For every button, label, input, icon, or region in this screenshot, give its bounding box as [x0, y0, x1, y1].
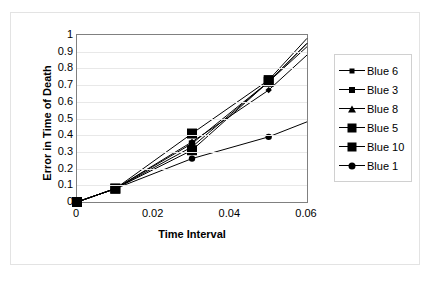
gridline	[77, 52, 307, 53]
legend-item-blue-3[interactable]: Blue 3	[339, 80, 407, 99]
gridline	[77, 152, 307, 153]
series-line	[77, 43, 307, 202]
plot-area	[76, 34, 308, 203]
legend-item-blue-10[interactable]: Blue 10	[339, 137, 407, 156]
series-line	[77, 43, 307, 202]
legend-item-label: Blue 3	[365, 84, 398, 96]
data-point-marker	[112, 185, 118, 191]
series-blue-10	[72, 47, 307, 207]
legend-item-label: Blue 10	[365, 141, 404, 153]
x-tick-label: 0.02	[131, 207, 175, 219]
y-tick-label: 0.2	[37, 163, 73, 174]
y-tick-label: 0	[37, 196, 73, 207]
legend-item-label: Blue 6	[365, 65, 398, 77]
x-tick-label: 0	[54, 207, 98, 219]
series-line	[77, 47, 307, 202]
data-point-marker	[189, 155, 195, 161]
legend-item-label: Blue 8	[365, 103, 398, 115]
chart-legend: Blue 6Blue 3Blue 8Blue 5Blue 10Blue 1	[334, 54, 412, 182]
y-tick-label: 0.5	[37, 113, 73, 124]
x-tick-label: 0.04	[207, 207, 251, 219]
legend-marker-square-sm-icon	[339, 83, 365, 97]
series-line	[77, 38, 307, 202]
legend-item-blue-8[interactable]: Blue 8	[339, 99, 407, 118]
legend-item-blue-5[interactable]: Blue 5	[339, 118, 407, 137]
y-axis-tick-labels: 00.10.20.30.40.50.60.70.80.91	[37, 34, 73, 216]
data-point-marker	[74, 199, 80, 205]
gridline	[77, 68, 307, 69]
legend-marker-circle-icon	[339, 159, 365, 173]
legend-item-blue-6[interactable]: Blue 6	[339, 61, 407, 80]
y-tick-label: 1	[37, 29, 73, 40]
y-tick-label: 0.7	[37, 79, 73, 90]
x-axis-title: Time Interval	[76, 228, 308, 240]
legend-item-label: Blue 5	[365, 122, 398, 134]
y-tick-label: 0.8	[37, 62, 73, 73]
y-tick-label: 0.4	[37, 129, 73, 140]
y-tick-label: 0.1	[37, 179, 73, 190]
legend-marker-square-lg-icon	[339, 140, 365, 154]
legend-item-label: Blue 1	[365, 160, 398, 172]
data-point-marker	[187, 129, 197, 139]
legend-item-blue-1[interactable]: Blue 1	[339, 156, 407, 175]
gridline	[77, 85, 307, 86]
y-tick-label: 0.3	[37, 146, 73, 157]
series-blue-5	[72, 38, 307, 207]
gridline	[77, 119, 307, 120]
x-tick-label: 0.06	[284, 207, 328, 219]
y-tick-label: 0.6	[37, 96, 73, 107]
legend-marker-diamond-icon	[339, 64, 365, 78]
legend-marker-square-lg-icon	[339, 121, 365, 135]
data-point-marker	[187, 145, 197, 155]
chart-frame: Error in Time of Death 00.10.20.30.40.50…	[10, 12, 420, 265]
gridline	[77, 185, 307, 186]
gridline	[77, 169, 307, 170]
gridline	[77, 135, 307, 136]
x-axis-tick-labels: 00.020.040.06	[76, 207, 308, 223]
legend-marker-triangle-icon	[339, 102, 365, 116]
gridline	[77, 102, 307, 103]
y-tick-label: 0.9	[37, 46, 73, 57]
